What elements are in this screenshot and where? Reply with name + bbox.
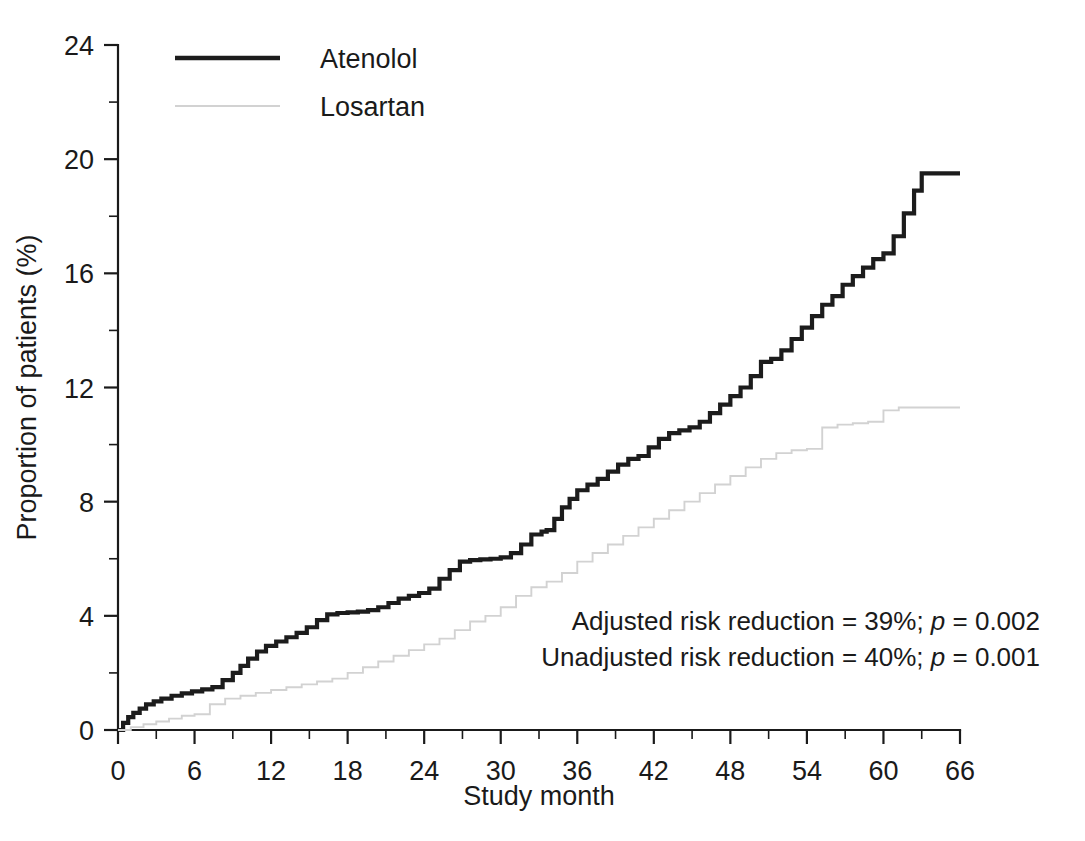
axis-titles: Study monthProportion of patients (%) <box>12 234 615 811</box>
axis-ticks <box>104 45 960 744</box>
chart-canvas: 061218243036424854606604812162024 Atenol… <box>0 0 1085 841</box>
x-tick-label: 0 <box>110 756 125 786</box>
annotation-suffix: = 0.002 <box>945 606 1040 636</box>
y-tick-label: 16 <box>64 259 94 289</box>
y-tick-label: 24 <box>64 31 94 61</box>
annotation-pvalue-symbol: p <box>930 606 945 636</box>
annotation-prefix: Unadjusted risk reduction = 40%; <box>541 642 931 672</box>
y-tick-label: 0 <box>79 716 94 746</box>
x-tick-label: 24 <box>409 756 439 786</box>
series-line-losartan <box>118 407 960 730</box>
x-axis-title: Study month <box>463 781 615 811</box>
y-tick-label: 20 <box>64 145 94 175</box>
annotation-pvalue-symbol: p <box>930 642 945 672</box>
x-tick-label: 48 <box>715 756 745 786</box>
annotation-suffix: = 0.001 <box>945 642 1040 672</box>
y-axis-title: Proportion of patients (%) <box>12 234 42 540</box>
y-tick-label: 12 <box>64 374 94 404</box>
axis-tick-labels: 061218243036424854606604812162024 <box>64 31 975 786</box>
x-tick-label: 54 <box>792 756 822 786</box>
x-tick-label: 12 <box>256 756 286 786</box>
y-tick-label: 4 <box>79 602 94 632</box>
x-tick-label: 66 <box>945 756 975 786</box>
x-tick-label: 42 <box>639 756 669 786</box>
y-tick-label: 8 <box>79 488 94 518</box>
x-tick-label: 18 <box>333 756 363 786</box>
kaplan-meier-figure: 061218243036424854606604812162024 Atenol… <box>0 0 1085 841</box>
legend-label-atenolol: Atenolol <box>320 44 418 74</box>
annotation-unadjusted-risk: Unadjusted risk reduction = 40%; p = 0.0… <box>541 642 1040 672</box>
annotation-adjusted-risk: Adjusted risk reduction = 39%; p = 0.002 <box>572 606 1040 636</box>
legend-label-losartan: Losartan <box>320 92 425 122</box>
annotation-prefix: Adjusted risk reduction = 39%; <box>572 606 931 636</box>
x-tick-label: 6 <box>187 756 202 786</box>
chart-annotations: Adjusted risk reduction = 39%; p = 0.002… <box>541 606 1040 672</box>
chart-legend: AtenololLosartan <box>175 44 425 122</box>
x-tick-label: 60 <box>868 756 898 786</box>
